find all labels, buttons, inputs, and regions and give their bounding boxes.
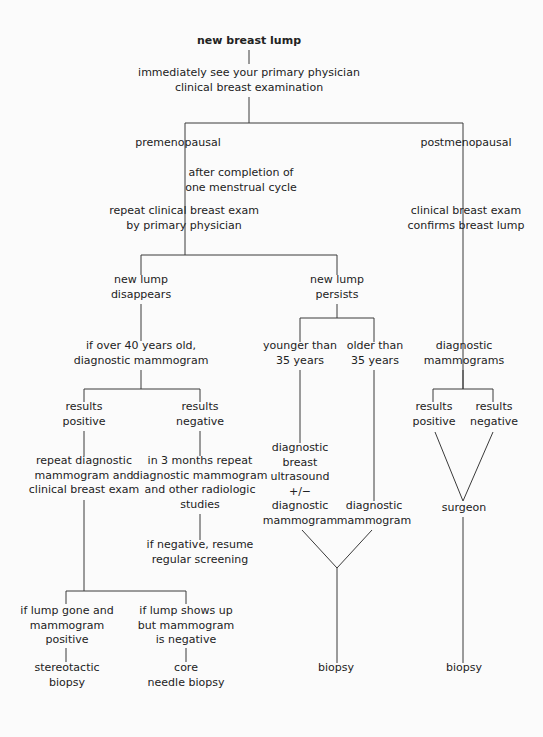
node-label: +/− (263, 485, 338, 500)
node-label: results (412, 400, 455, 415)
node-label: persists (310, 288, 364, 303)
node-label: confirms breast lump (408, 219, 525, 234)
node-left-results-positive: results positive (62, 400, 105, 429)
node-younger-than-35: younger than 35 years (263, 339, 337, 368)
node-label: 35 years (263, 354, 337, 369)
node-label: diagnostic (337, 499, 412, 514)
node-label: premenopausal (135, 136, 220, 151)
node-label: new lump (310, 273, 364, 288)
node-right-results-positive: results positive (412, 400, 455, 429)
node-after-menstrual-cycle: after completion of one menstrual cycle (185, 166, 297, 195)
node-label: surgeon (442, 501, 486, 516)
node-label: clinical breast exam (29, 483, 139, 498)
node-older-diagnostic-mammogram: diagnostic mammogram (337, 499, 412, 528)
node-core-needle-biopsy: core needle biopsy (148, 661, 225, 690)
node-label: results (176, 400, 224, 415)
node-biopsy-middle: biopsy (318, 661, 354, 676)
node-label: core (148, 661, 225, 676)
node-label: clinical breast exam (408, 204, 525, 219)
node-label: new lump (111, 273, 171, 288)
node-label: younger than (263, 339, 337, 354)
node-label: if over 40 years old, (74, 339, 209, 354)
node-over-40-mammogram: if over 40 years old, diagnostic mammogr… (74, 339, 209, 368)
node-label: biopsy (318, 661, 354, 676)
node-biopsy-right: biopsy (446, 661, 482, 676)
node-repeat-diagnostic-mammogram: repeat diagnostic mammogram and clinical… (29, 454, 139, 498)
node-stereotactic-biopsy: stereotactic biopsy (34, 661, 99, 690)
node-label: by primary physician (109, 219, 259, 234)
node-label: diagnostic mammogram (133, 469, 268, 484)
node-older-than-35: older than 35 years (347, 339, 404, 368)
node-label: older than (347, 339, 404, 354)
node-label: needle biopsy (148, 676, 225, 691)
node-label: negative (176, 415, 224, 430)
node-label: repeat diagnostic (29, 454, 139, 469)
node-label: diagnostic mammogram (74, 354, 209, 369)
node-right-results-negative: results negative (470, 400, 518, 429)
node-label: ultrasound (263, 470, 338, 485)
node-three-months-repeat: in 3 months repeat diagnostic mammogram … (133, 454, 268, 512)
node-label: if lump shows up (138, 604, 234, 619)
node-label: after completion of (185, 166, 297, 181)
node-label: immediately see your primary physician (138, 66, 360, 81)
node-label: mammogram (20, 619, 113, 634)
node-confirms-breast-lump: clinical breast exam confirms breast lum… (408, 204, 525, 233)
node-label: one menstrual cycle (185, 181, 297, 196)
node-label: diagnostic (263, 441, 338, 456)
node-label: positive (62, 415, 105, 430)
node-label: clinical breast examination (138, 81, 360, 96)
node-label: diagnostic (263, 499, 338, 514)
node-label: positive (412, 415, 455, 430)
node-left-results-negative: results negative (176, 400, 224, 429)
node-label: 35 years (347, 354, 404, 369)
node-label: but mammogram (138, 619, 234, 634)
node-label: positive (20, 633, 113, 648)
node-lump-disappears: new lump disappears (111, 273, 171, 302)
node-label: results (62, 400, 105, 415)
node-label: results (470, 400, 518, 415)
node-label: biopsy (34, 676, 99, 691)
node-lump-shows-mammogram-negative: if lump shows up but mammogram is negati… (138, 604, 234, 648)
node-label: mammogram and (29, 469, 139, 484)
node-label: is negative (138, 633, 234, 648)
node-see-primary-physician: immediately see your primary physician c… (138, 66, 360, 95)
node-label: mammograms (424, 354, 504, 369)
node-label: mammogram (337, 514, 412, 529)
node-lump-gone-mammogram-positive: if lump gone and mammogram positive (20, 604, 113, 648)
node-label: if negative, resume (147, 538, 254, 553)
node-label: repeat clinical breast exam (109, 204, 259, 219)
node-label: disappears (111, 288, 171, 303)
node-premenopausal: premenopausal (135, 136, 220, 151)
node-postmenopausal: postmenopausal (420, 136, 511, 151)
node-label: diagnostic (424, 339, 504, 354)
node-breast-ultrasound: diagnostic breast ultrasound +/− diagnos… (263, 441, 338, 528)
node-label: breast (263, 456, 338, 471)
node-label: biopsy (446, 661, 482, 676)
node-label: in 3 months repeat (133, 454, 268, 469)
node-label: studies (133, 498, 268, 513)
node-resume-screening: if negative, resume regular screening (147, 538, 254, 567)
node-lump-persists: new lump persists (310, 273, 364, 302)
node-new-breast-lump: new breast lump (197, 34, 301, 49)
node-surgeon: surgeon (442, 501, 486, 516)
node-label: mammogram (263, 514, 338, 529)
node-label: regular screening (147, 553, 254, 568)
node-repeat-clinical-exam: repeat clinical breast exam by primary p… (109, 204, 259, 233)
node-label: new breast lump (197, 34, 301, 49)
node-label: and other radiologic (133, 483, 268, 498)
node-label: stereotactic (34, 661, 99, 676)
node-label: negative (470, 415, 518, 430)
node-diagnostic-mammograms: diagnostic mammograms (424, 339, 504, 368)
node-label: postmenopausal (420, 136, 511, 151)
breast-lump-flowchart: new breast lump immediately see your pri… (0, 0, 543, 737)
node-label: if lump gone and (20, 604, 113, 619)
